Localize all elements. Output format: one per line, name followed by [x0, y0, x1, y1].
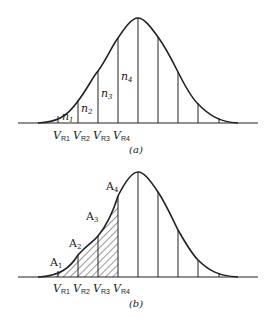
svg-text:VR4: VR4: [113, 129, 130, 142]
voltage-axis-labels: VR1 VR2 VR3 VR4: [53, 129, 130, 142]
panel-b: A1 A2 A3 A4 VR1 VR2 VR3 VR4 (b): [18, 172, 258, 309]
caption-b: (b): [129, 298, 143, 309]
svg-text:A3: A3: [85, 210, 98, 224]
gaussian-diagram: n1 n2 n3 n4 VR1 VR2 VR3 VR4 (a): [0, 0, 272, 319]
svg-text:A1: A1: [49, 256, 62, 270]
svg-text:VR1: VR1: [53, 282, 70, 295]
svg-text:A4: A4: [105, 180, 119, 194]
svg-text:VR2: VR2: [73, 282, 90, 295]
svg-text:VR3: VR3: [93, 129, 110, 142]
caption-a: (a): [129, 144, 143, 155]
svg-text:VR2: VR2: [73, 129, 90, 142]
svg-text:VR3: VR3: [93, 282, 110, 295]
svg-text:n3: n3: [101, 87, 113, 101]
svg-text:n4: n4: [121, 70, 133, 84]
region-labels: n1 n2 n3 n4: [62, 70, 133, 124]
voltage-axis-labels: VR1 VR2 VR3 VR4: [53, 282, 130, 295]
svg-text:A2: A2: [68, 237, 81, 251]
svg-text:n1: n1: [62, 110, 74, 124]
panel-a: n1 n2 n3 n4 VR1 VR2 VR3 VR4 (a): [18, 18, 258, 155]
svg-text:n2: n2: [81, 102, 93, 116]
svg-text:VR4: VR4: [113, 282, 130, 295]
svg-text:VR1: VR1: [53, 129, 70, 142]
